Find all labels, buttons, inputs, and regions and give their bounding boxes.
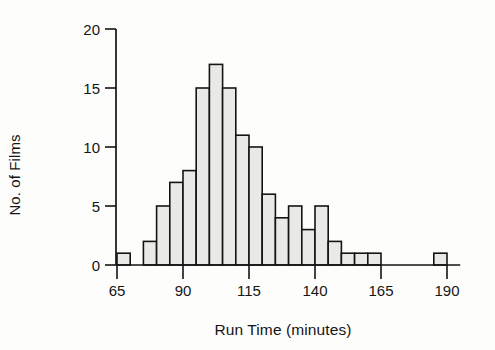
- histogram-bar: [328, 241, 341, 265]
- histogram-bar: [289, 206, 302, 265]
- histogram-bar: [341, 253, 354, 265]
- histogram-figure: 6590115140165190 05101520 No. of Films R…: [0, 0, 495, 350]
- histogram-bar: [315, 206, 328, 265]
- histogram-bar: [196, 88, 209, 265]
- histogram-bar: [209, 64, 222, 265]
- x-axis-label: Run Time (minutes): [214, 321, 351, 339]
- x-tick-label: 190: [434, 282, 459, 299]
- histogram-bar: [117, 253, 130, 265]
- histogram-bar: [157, 206, 170, 265]
- histogram-bar: [275, 218, 288, 265]
- y-tick-label: 20: [83, 21, 100, 38]
- x-tick-label: 115: [237, 282, 261, 299]
- x-tick-label: 90: [175, 282, 192, 299]
- y-tick-label: 15: [83, 80, 100, 97]
- y-axis-label: No. of Films: [6, 134, 23, 215]
- histogram-bar: [434, 253, 447, 265]
- histogram-bar: [249, 147, 262, 265]
- x-tick-label: 165: [368, 282, 393, 299]
- histogram-bar: [143, 241, 156, 265]
- histogram-bar: [183, 171, 196, 265]
- histogram-bar: [223, 88, 236, 265]
- histogram-bar: [368, 253, 381, 265]
- y-tick-label: 10: [83, 139, 100, 156]
- histogram-bar: [236, 135, 249, 265]
- histogram-bar: [262, 194, 275, 265]
- y-tick-label: 5: [92, 198, 100, 215]
- x-tick-label: 65: [109, 282, 126, 299]
- histogram-bar: [170, 182, 183, 265]
- histogram-bar: [355, 253, 368, 265]
- histogram-bar: [302, 230, 315, 265]
- bars-group: [117, 64, 447, 265]
- x-tick-label: 140: [302, 282, 327, 299]
- y-tick-label: 0: [92, 257, 100, 274]
